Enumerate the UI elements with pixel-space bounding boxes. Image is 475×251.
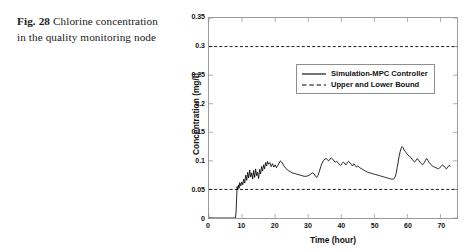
x-axis-title: Time (hour) — [208, 235, 458, 245]
x-tick-label: 60 — [398, 222, 418, 230]
legend-item: Upper and Lower Bound — [301, 79, 428, 90]
figure-caption: Fig. 28 Chlorine concentration in the qu… — [17, 14, 169, 45]
x-tick-label: 70 — [431, 222, 451, 230]
data-series — [209, 147, 450, 218]
x-axis-tick-labels: 010203040506070 — [208, 222, 458, 234]
y-tick-label: 0.35 — [191, 13, 205, 21]
chart-legend: Simulation-MPC Controller Upper and Lowe… — [296, 64, 435, 94]
x-tick-label: 50 — [365, 222, 385, 230]
legend-label: Simulation-MPC Controller — [331, 69, 428, 79]
series-line — [209, 147, 450, 218]
legend-solid-line-icon — [301, 69, 327, 79]
plot-svg — [209, 18, 457, 218]
x-tick-label: 20 — [265, 222, 285, 230]
legend-label: Upper and Lower Bound — [331, 80, 419, 90]
chlorine-concentration-chart: 00.050.10.150.20.250.30.35 Concentration… — [176, 8, 468, 251]
axis-tick-marks — [209, 18, 457, 218]
x-tick-label: 40 — [331, 222, 351, 230]
y-axis-title: Concentration (mg/l) — [191, 34, 201, 194]
x-tick-label: 0 — [198, 222, 218, 230]
x-tick-label: 30 — [298, 222, 318, 230]
legend-dashed-line-icon — [301, 80, 327, 90]
figure-number: Fig. 28 — [17, 15, 50, 27]
legend-item: Simulation-MPC Controller — [301, 68, 428, 79]
x-tick-label: 10 — [231, 222, 251, 230]
plot-area — [208, 17, 458, 219]
